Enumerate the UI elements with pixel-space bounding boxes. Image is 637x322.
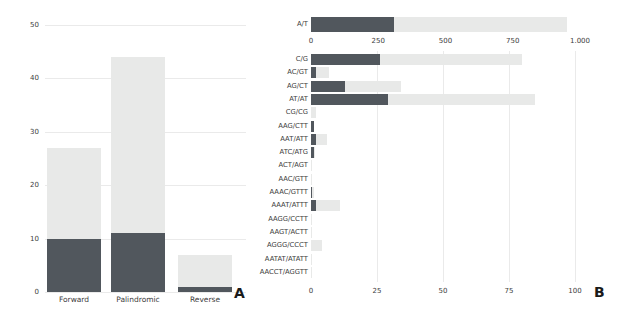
bar-forward-light-segment	[47, 148, 101, 239]
bar-at-at-light-segment	[388, 94, 536, 105]
bar-c-g-light-segment	[380, 54, 523, 65]
bar-aag-ctt-dark-segment	[311, 121, 314, 132]
y-gridline	[45, 25, 246, 26]
bar-at-at-dark-segment	[311, 94, 388, 105]
bar-ac-gt-light-segment	[316, 67, 329, 78]
bar-atc-atg-light-segment	[314, 147, 315, 158]
x-gridline	[509, 51, 510, 282]
top-x-axis-tick-label: 750	[493, 37, 533, 46]
y-axis-tick-label: 20	[19, 181, 39, 190]
row-label-at-at: AT/AT	[289, 94, 308, 105]
y-axis-tick-label: 30	[19, 128, 39, 137]
bar-aagg-cctt-light-segment	[311, 214, 312, 225]
row-label-aggg-ccct: AGGG/CCCT	[267, 240, 308, 251]
row-label-aagg-cctt: AAGG/CCTT	[268, 214, 308, 225]
bar-aaac-gttt-light-segment	[312, 187, 313, 198]
bar-forward-dark-segment	[47, 239, 101, 292]
row-label-a-t: A/T	[297, 19, 308, 30]
panel-a-label: A	[234, 286, 245, 301]
row-label-aagt-actt: AAGT/ACTT	[270, 227, 308, 238]
y-axis-tick-label: 10	[19, 235, 39, 244]
bar-palindromic-dark-segment	[111, 233, 165, 292]
x-gridline	[575, 51, 576, 282]
bottom-x-axis-tick-label: 75	[489, 287, 529, 296]
row-label-ag-ct: AG/CT	[287, 81, 308, 92]
bar-aac-gtt-light-segment	[311, 174, 312, 185]
bar-aat-att-light-segment	[316, 134, 327, 145]
bar-a-t-dark-segment	[311, 17, 394, 32]
bar-cg-cg-light-segment	[311, 107, 316, 118]
bar-aagt-actt-light-segment	[311, 227, 312, 238]
bar-aacct-aggtt-light-segment	[311, 267, 312, 278]
row-label-aacct-aggtt: AACCT/AGGTT	[260, 267, 308, 278]
top-x-axis-tick-label: 0	[291, 37, 331, 46]
bar-ag-ct-dark-segment	[311, 81, 345, 92]
y-axis-tick-label: 40	[19, 74, 39, 83]
row-label-aat-att: AAT/ATT	[280, 134, 308, 145]
bar-aaat-attt-light-segment	[316, 200, 340, 211]
figure-canvas: 01020304050ForwardPalindromicReverse A/T…	[0, 0, 637, 322]
row-label-aag-ctt: AAG/CTT	[278, 121, 308, 132]
bar-reverse-dark-segment	[178, 287, 232, 292]
x-axis-category-label-palindromic: Palindromic	[111, 295, 165, 304]
x-gridline	[443, 51, 444, 282]
bottom-x-axis-tick-label: 50	[423, 287, 463, 296]
bottom-x-axis-tick-label: 0	[291, 287, 331, 296]
row-label-aaat-attt: AAAT/ATTT	[271, 200, 308, 211]
row-label-atc-atg: ATC/ATG	[280, 147, 308, 158]
x-axis-category-label-reverse: Reverse	[178, 295, 232, 304]
top-x-axis-tick-label: 250	[358, 37, 398, 46]
x-axis-category-label-forward: Forward	[47, 295, 101, 304]
bar-aggg-ccct-light-segment	[311, 240, 322, 251]
bottom-x-axis-tick-label: 100	[555, 287, 595, 296]
row-label-aatat-atatt: AATAT/ATATT	[265, 254, 308, 265]
bar-palindromic-light-segment	[111, 57, 165, 233]
row-label-cg-cg: CG/CG	[286, 107, 308, 118]
row-label-act-agt: ACT/AGT	[279, 160, 308, 171]
row-label-aaac-gttt: AAAC/GTTT	[270, 187, 309, 198]
y-axis-tick-label: 0	[19, 288, 39, 297]
bottom-x-axis-tick-label: 25	[357, 287, 397, 296]
top-x-axis-tick-label: 500	[426, 37, 466, 46]
row-label-c-g: C/G	[296, 54, 308, 65]
bar-act-agt-light-segment	[311, 160, 312, 171]
bar-aatat-atatt-light-segment	[311, 254, 312, 265]
bar-ag-ct-light-segment	[345, 81, 400, 92]
row-label-aac-gtt: AAC/GTT	[278, 174, 308, 185]
panel-b-label: B	[594, 285, 605, 300]
top-x-axis-tick-label: 1.000	[560, 37, 600, 46]
y-gridline	[45, 292, 246, 293]
bar-a-t-light-segment	[394, 17, 566, 32]
row-label-ac-gt: AC/GT	[287, 67, 308, 78]
y-axis-tick-label: 50	[19, 21, 39, 30]
bar-c-g-dark-segment	[311, 54, 380, 65]
bar-reverse-light-segment	[178, 255, 232, 287]
